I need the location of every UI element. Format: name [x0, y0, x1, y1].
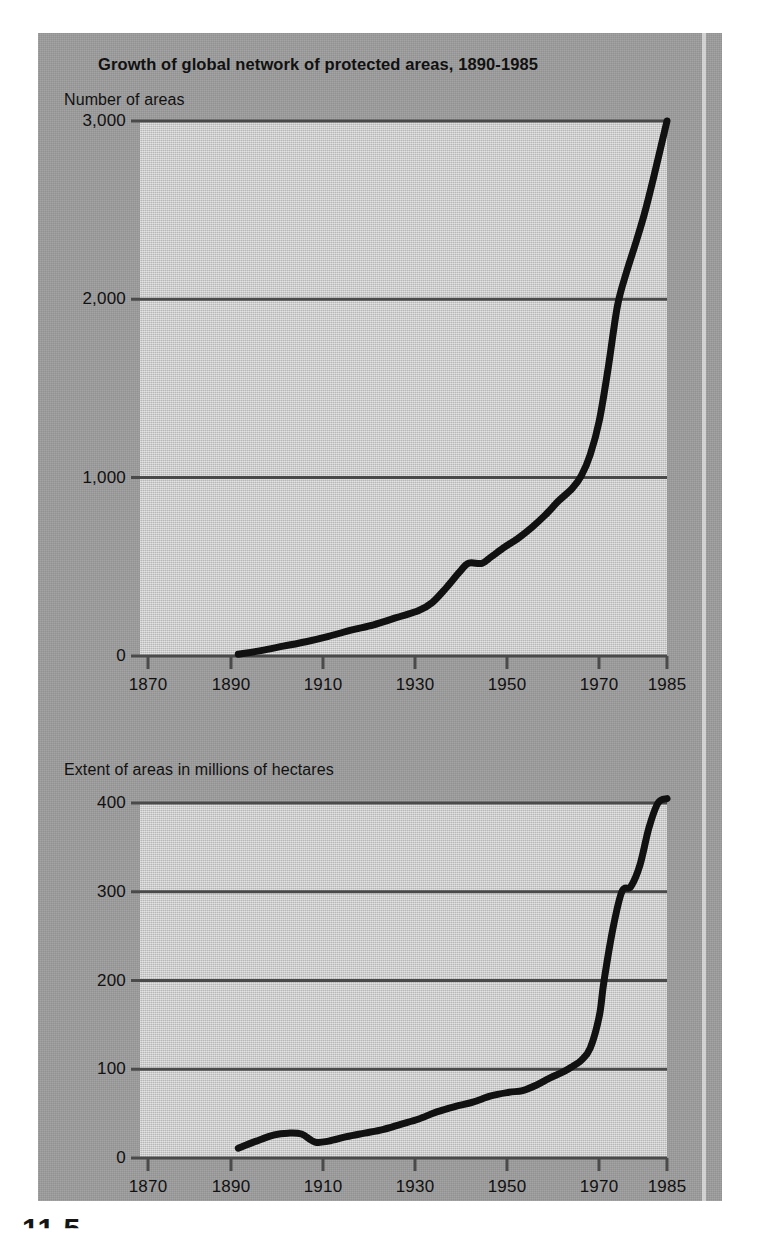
xtick-label-bottom-1: 1890: [196, 1177, 266, 1197]
figure-panel: Growth of global network of protected ar…: [38, 33, 722, 1201]
gridlines-bottom: [131, 803, 667, 1069]
xtick-label-top-0: 1870: [113, 675, 183, 695]
chart-svg-top: [38, 33, 722, 693]
ytick-label-bottom-3: 100: [40, 1059, 126, 1079]
xtick-label-bottom-0: 1870: [113, 1177, 183, 1197]
x-ticks-bottom: [148, 1158, 667, 1171]
xtick-label-bottom-2: 1910: [288, 1177, 358, 1197]
xtick-label-bottom-3: 1930: [380, 1177, 450, 1197]
x-ticks-top: [148, 656, 667, 669]
ytick-label-bottom-2: 200: [40, 971, 126, 991]
ytick-label-top-1: 2,000: [40, 289, 126, 309]
chart-number-of-areas: Number of areas: [38, 33, 722, 693]
xtick-label-bottom-4: 1950: [472, 1177, 542, 1197]
data-line-top: [238, 121, 667, 654]
xtick-label-top-5: 1970: [564, 675, 634, 695]
ytick-label-top-3: 0: [40, 646, 126, 666]
xtick-label-top-4: 1950: [472, 675, 542, 695]
xtick-label-top-6: 1985: [632, 675, 702, 695]
ytick-label-bottom-4: 0: [40, 1148, 126, 1168]
xtick-label-bottom-6: 1985: [632, 1177, 702, 1197]
gridlines-top: [131, 121, 667, 478]
xtick-label-top-1: 1890: [196, 675, 266, 695]
xtick-label-bottom-5: 1970: [564, 1177, 634, 1197]
ytick-label-top-0: 3,000: [40, 111, 126, 131]
xtick-label-top-3: 1930: [380, 675, 450, 695]
ytick-label-bottom-1: 300: [40, 882, 126, 902]
ytick-label-top-2: 1,000: [40, 468, 126, 488]
chart-extent-of-areas: Extent of areas in millions of hectares: [38, 751, 722, 1201]
ytick-label-bottom-0: 400: [40, 793, 126, 813]
data-line-bottom: [238, 799, 667, 1149]
figure-caption: 11.5: [22, 1212, 81, 1245]
chart-svg-bottom: [38, 751, 722, 1201]
xtick-label-top-2: 1910: [288, 675, 358, 695]
